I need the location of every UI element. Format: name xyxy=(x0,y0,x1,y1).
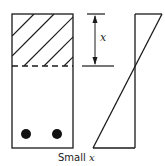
diagram-canvas: x Small x xyxy=(0,0,165,166)
caption-x: x xyxy=(89,152,95,163)
rebar-dot-left xyxy=(21,129,31,139)
depth-dimension: x xyxy=(82,14,114,66)
arrow-up-icon xyxy=(93,15,98,23)
dimension-label-x: x xyxy=(100,31,107,44)
arrow-down-icon xyxy=(93,57,98,65)
section-outline xyxy=(12,14,73,148)
caption-small: Small x xyxy=(58,152,95,163)
rebar-dot-right xyxy=(52,129,62,139)
